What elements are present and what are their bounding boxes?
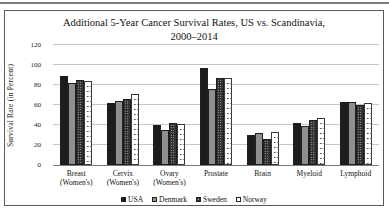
bar-denmark bbox=[161, 130, 169, 165]
legend-label: Denmark bbox=[159, 195, 187, 204]
legend-label: USA bbox=[128, 195, 143, 204]
legend-swatch-icon bbox=[236, 197, 241, 202]
x-category-label: Cervix (Women's) bbox=[100, 169, 147, 187]
bar-norway bbox=[271, 132, 279, 165]
bar-usa bbox=[200, 68, 208, 165]
bar-usa bbox=[153, 125, 161, 165]
legend-label: Norway bbox=[243, 195, 267, 204]
legend-label: Sweden bbox=[203, 195, 227, 204]
legend-item-sweden: Sweden bbox=[196, 195, 227, 204]
x-category-label: Breast (Women's) bbox=[53, 169, 100, 187]
legend-item-usa: USA bbox=[121, 195, 143, 204]
bar-norway bbox=[364, 103, 372, 165]
legend-swatch-icon bbox=[196, 197, 201, 202]
bar-sweden bbox=[309, 120, 317, 165]
bar-usa bbox=[293, 123, 301, 165]
x-category-label: Brain bbox=[239, 169, 286, 187]
bar-group bbox=[146, 45, 193, 165]
bar-denmark bbox=[301, 126, 309, 165]
y-tick-label: 0 bbox=[38, 161, 42, 169]
bar-denmark bbox=[348, 102, 356, 165]
bar-group bbox=[53, 45, 100, 165]
x-axis-category-labels: Breast (Women's)Cervix (Women's)Ovary (W… bbox=[53, 169, 379, 187]
y-tick-label: 120 bbox=[31, 41, 42, 49]
bar-denmark bbox=[255, 133, 263, 165]
bar-sweden bbox=[169, 123, 177, 165]
bar-sweden bbox=[123, 99, 131, 165]
chart-container: Additional 5-Year Cancer Survival Rates,… bbox=[4, 10, 384, 206]
bar-norway bbox=[224, 78, 232, 165]
chart-title: Additional 5-Year Cancer Survival Rates,… bbox=[5, 16, 383, 43]
x-category-label: Lymphoid bbox=[332, 169, 379, 187]
y-tick-label: 100 bbox=[31, 61, 42, 69]
chart-title-line2: 2000–2014 bbox=[170, 31, 217, 42]
bar-usa bbox=[60, 76, 68, 165]
bar-norway bbox=[131, 94, 139, 165]
legend-swatch-icon bbox=[121, 197, 126, 202]
y-tick-label: 40 bbox=[34, 121, 41, 129]
chart-title-line1: Additional 5-Year Cancer Survival Rates,… bbox=[63, 17, 325, 28]
bar-sweden bbox=[263, 139, 271, 165]
y-tick-label: 60 bbox=[34, 101, 41, 109]
bar-group bbox=[286, 45, 333, 165]
bar-denmark bbox=[208, 89, 216, 165]
y-axis-title: Survival Rate (in Percent) bbox=[6, 44, 17, 166]
plot-area bbox=[53, 45, 379, 166]
bar-denmark bbox=[68, 83, 76, 165]
bar-group bbox=[193, 45, 240, 165]
x-category-label: Ovary (Women's) bbox=[146, 169, 193, 187]
x-category-label: Myeloid bbox=[286, 169, 333, 187]
bar-usa bbox=[107, 103, 115, 165]
bar-sweden bbox=[76, 80, 84, 165]
y-tick-label: 80 bbox=[34, 81, 41, 89]
bar-norway bbox=[177, 124, 185, 165]
bar-norway bbox=[317, 118, 325, 165]
legend-item-denmark: Denmark bbox=[152, 195, 187, 204]
bar-denmark bbox=[115, 101, 123, 165]
page-top-rule bbox=[0, 2, 389, 4]
bar-usa bbox=[247, 135, 255, 165]
bar-norway bbox=[84, 81, 92, 165]
legend-swatch-icon bbox=[152, 197, 157, 202]
legend: USADenmarkSwedenNorway bbox=[5, 195, 383, 204]
legend-item-norway: Norway bbox=[236, 195, 267, 204]
bar-group bbox=[100, 45, 147, 165]
bar-usa bbox=[340, 102, 348, 165]
bar-sweden bbox=[356, 105, 364, 165]
x-category-label: Prostate bbox=[193, 169, 240, 187]
bar-group bbox=[332, 45, 379, 165]
y-axis-tick-labels: 020406080100120 bbox=[19, 45, 45, 165]
bar-group bbox=[239, 45, 286, 165]
y-tick-label: 20 bbox=[34, 141, 41, 149]
bar-sweden bbox=[216, 78, 224, 165]
